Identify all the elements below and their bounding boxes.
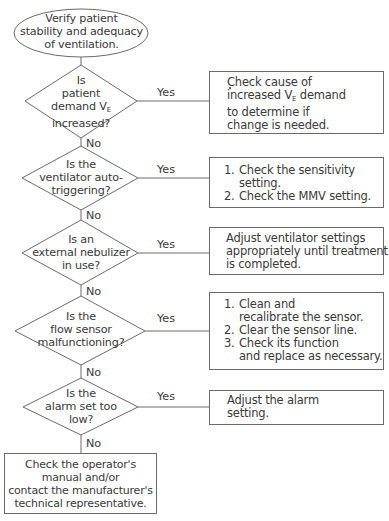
decision-line: malfunctioning? xyxy=(26,336,136,349)
decision-line: Is xyxy=(36,74,126,87)
decision-line: low? xyxy=(36,413,126,426)
decision-4-text: Is the flow sensor malfunctioning? xyxy=(26,310,136,349)
action-line-text: demand xyxy=(296,88,345,102)
action-4-text: 1. Clean andrecalibrate the sensor. 2. C… xyxy=(224,298,382,363)
action-5-text: Adjust the alarm setting. xyxy=(227,394,319,420)
action-line: is completed. xyxy=(226,258,388,271)
decision-1-text: Is patient demand VE increased? xyxy=(36,74,126,130)
decision-5-text: Is the alarm set too low? xyxy=(36,387,126,426)
end-line: manual and/or xyxy=(4,471,157,484)
no-label-2: No xyxy=(86,209,101,222)
end-line: contact the manufacturer's xyxy=(4,484,157,497)
action-line: setting. xyxy=(227,407,319,420)
decision-line: increased? xyxy=(36,117,126,130)
decision-line: Is an xyxy=(26,233,136,246)
no-label-5: No xyxy=(86,437,101,450)
decision-2-text: Is the ventilator auto- triggering? xyxy=(36,158,126,197)
list-number: 1. xyxy=(224,164,239,190)
list-item: 1. Check the sensitivitysetting. xyxy=(224,164,371,190)
start-line: stability and adequacy xyxy=(14,25,149,38)
decision-line-text: demand V xyxy=(51,100,107,113)
action-line: increased VE demand xyxy=(227,89,346,106)
yes-label-1: Yes xyxy=(157,86,175,99)
list-item: 1. Clean andrecalibrate the sensor. xyxy=(224,298,382,324)
end-text: Check the operator's manual and/or conta… xyxy=(4,458,157,510)
decision-line: Is the xyxy=(26,310,136,323)
action-2-text: 1. Check the sensitivitysetting. 2. Chec… xyxy=(224,164,371,203)
list-item: 2. Check the MMV setting. xyxy=(224,190,371,203)
decision-line: flow sensor xyxy=(26,323,136,336)
start-node: Verify patient stability and adequacy of… xyxy=(14,12,149,51)
no-label-3: No xyxy=(86,285,101,298)
end-line: Check the operator's xyxy=(4,458,157,471)
decision-line: external nebulizer xyxy=(26,246,136,259)
action-line: and replace as necessary. xyxy=(239,350,382,363)
end-line: technical representative. xyxy=(4,497,157,510)
list-item: 3. Check its functionand replace as nece… xyxy=(224,337,382,363)
no-label-4: No xyxy=(86,366,101,379)
action-line: Check the MMV setting. xyxy=(239,190,371,203)
start-line: of ventilation. xyxy=(14,38,149,51)
yes-label-4: Yes xyxy=(157,312,175,325)
yes-label-5: Yes xyxy=(157,390,175,403)
decision-line: demand VE xyxy=(36,100,126,117)
subscript: E xyxy=(107,106,111,114)
decision-line: patient xyxy=(36,87,126,100)
start-line: Verify patient xyxy=(14,12,149,25)
action-line-text: increased V xyxy=(227,88,292,102)
action-3-text: Adjust ventilator settings appropriately… xyxy=(226,232,388,271)
list-number: 2. xyxy=(224,190,239,203)
decision-line: in use? xyxy=(26,259,136,272)
decision-line: triggering? xyxy=(36,184,126,197)
yes-label-3: Yes xyxy=(157,238,175,251)
decision-line: ventilator auto- xyxy=(36,171,126,184)
yes-label-2: Yes xyxy=(157,163,175,176)
list-number: 1. xyxy=(224,298,239,324)
no-label-1: No xyxy=(86,137,101,150)
decision-line: alarm set too xyxy=(36,400,126,413)
action-line: change is needed. xyxy=(227,119,346,132)
decision-3-text: Is an external nebulizer in use? xyxy=(26,233,136,272)
list-number: 3. xyxy=(224,337,239,363)
decision-line: Is the xyxy=(36,158,126,171)
action-1-text: Check cause of increased VE demand to de… xyxy=(227,76,346,132)
decision-line: Is the xyxy=(36,387,126,400)
